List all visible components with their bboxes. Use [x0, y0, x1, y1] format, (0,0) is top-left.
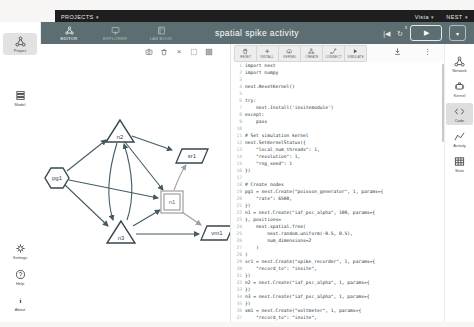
- code-line: 12nest.SetKernelStatus({: [231, 139, 445, 146]
- graph-edge-n3-n2[interactable]: [124, 144, 132, 220]
- panel-tab-stats[interactable]: Stats: [446, 153, 473, 175]
- sidebar-item-model[interactable]: Model: [3, 87, 37, 109]
- code-line: 23}, positions=: [231, 216, 445, 223]
- simulate-button[interactable]: ▶: [410, 25, 442, 41]
- code-line: 11# Set simulation kernel: [231, 132, 445, 139]
- code-line: 20 "rate": 6500,: [231, 195, 445, 202]
- code-line: 19pg1 = nest.Create("poisson_generator",…: [231, 188, 445, 195]
- code-text: n1 = nest.Create("iaf_psc_alpha", 100, p…: [245, 209, 375, 216]
- code-text: "record_to": "insite",: [245, 265, 317, 272]
- panel-tab-activity[interactable]: Activity: [446, 128, 473, 150]
- line-number: 33: [231, 286, 245, 293]
- simulate-options-button[interactable]: ▾: [449, 25, 466, 41]
- redo-button[interactable]: ↻3: [397, 30, 403, 37]
- nest-menu[interactable]: NEST▾: [440, 14, 474, 20]
- graph-node-n3[interactable]: n3: [107, 221, 135, 243]
- tab-explorer[interactable]: EXPLORER: [92, 22, 138, 44]
- close-button[interactable]: ×: [174, 47, 184, 57]
- line-number: 17: [231, 174, 245, 181]
- code-line: 13 "local_num_threads": 1,: [231, 146, 445, 153]
- rail-item-label: Settings: [13, 255, 27, 260]
- graph-edge-pg1-n3[interactable]: [65, 185, 108, 226]
- tab-editor[interactable]: EDITOR: [46, 22, 92, 44]
- graph-edge-n2-n3[interactable]: [109, 143, 117, 220]
- graph-edge-n2-n1[interactable]: [125, 142, 163, 190]
- code-block-label: SIMULATE: [347, 55, 363, 59]
- layers-icon: [15, 90, 26, 101]
- graph-node-vm1[interactable]: vm1: [201, 226, 232, 240]
- code-line: 30 "record_to": "insite",: [231, 265, 445, 272]
- line-number: 18: [231, 181, 245, 188]
- line-number: 26: [231, 237, 245, 244]
- graph-node-n2[interactable]: n2: [106, 120, 134, 142]
- code-block-connect-button[interactable]: CONNECT: [323, 45, 345, 62]
- panel-tab-kernel[interactable]: Kernel: [446, 78, 473, 100]
- code-block-simulate-button[interactable]: SIMULATE: [345, 45, 367, 62]
- code-line: 6try:: [231, 97, 445, 104]
- graph-edge-n2-sr1[interactable]: [132, 136, 172, 150]
- kebab-menu-icon[interactable]: ⋮: [424, 48, 431, 55]
- panel-tab-network[interactable]: Network: [446, 53, 473, 75]
- code-text: pg1 = nest.Create("poisson_generator", 1…: [245, 188, 383, 195]
- line-number: 12: [231, 139, 245, 146]
- graph-edge-n1-sr1[interactable]: [174, 165, 186, 190]
- code-block-reset-button[interactable]: RESET: [234, 45, 257, 62]
- camera-button[interactable]: [144, 47, 154, 57]
- line-number: 25: [231, 230, 245, 237]
- panel-tab-code[interactable]: Code: [446, 103, 473, 125]
- sidebar-item-help[interactable]: Help: [3, 266, 37, 288]
- right-sidebar: NetworkKernelCodeActivityStats: [444, 44, 474, 322]
- sidebar-item-project[interactable]: Project: [3, 33, 37, 55]
- code-block-install-button[interactable]: INSTALL: [257, 45, 279, 62]
- code-text: }): [245, 167, 251, 174]
- line-number: 20: [231, 195, 245, 202]
- graph-node-pg1[interactable]: pg1: [45, 168, 69, 188]
- node-label: n3: [118, 235, 125, 241]
- code-line: 4nest.ResetKernel(): [231, 83, 445, 90]
- line-number: 11: [231, 132, 245, 139]
- line-number: 36: [231, 307, 245, 314]
- code-line: 37 "record_to": "insite",: [231, 314, 445, 321]
- line-number: 34: [231, 293, 245, 300]
- code-line: 8except:: [231, 111, 445, 118]
- grid-icon: [205, 48, 213, 56]
- graph-edge-n3-n1[interactable]: [133, 210, 160, 226]
- grid-button[interactable]: [204, 47, 214, 57]
- tab-label: EDITOR: [61, 36, 78, 41]
- left-sidebar-top: ProjectModel: [0, 22, 40, 109]
- menu-label: Vista: [415, 14, 429, 20]
- line-number: 27: [231, 244, 245, 251]
- code-text: }): [245, 286, 251, 293]
- projects-menu[interactable]: PROJECTS ▾: [55, 14, 105, 20]
- select-button[interactable]: [189, 47, 199, 57]
- vista-menu[interactable]: Vista▾: [409, 14, 441, 20]
- line-number: 10: [231, 125, 245, 132]
- network-graph[interactable]: pg1n2n3n1sr1vm1: [40, 62, 232, 322]
- sidebar-item-settings[interactable]: Settings: [3, 240, 37, 262]
- code-block-create-button[interactable]: CREATE: [301, 45, 323, 62]
- code-line: 35}): [231, 300, 445, 307]
- rail-item-label: Network: [452, 68, 467, 73]
- network-icon: [65, 26, 74, 35]
- node-label: vm1: [211, 230, 223, 236]
- code-block-kernel-button[interactable]: KERNEL: [279, 45, 301, 62]
- skip-start-button[interactable]: |◀: [383, 30, 390, 37]
- line-number: 21: [231, 202, 245, 209]
- line-number: 8: [231, 111, 245, 118]
- graph-edge-n1-vm1[interactable]: [182, 212, 201, 225]
- graph-node-n1[interactable]: n1: [161, 191, 183, 213]
- code-line: 1import nest: [231, 62, 445, 69]
- sidebar-item-about[interactable]: About: [3, 292, 37, 314]
- trash-icon: [242, 48, 249, 55]
- graph-edge-pg1-n1[interactable]: [69, 180, 158, 198]
- download-icon[interactable]: [393, 47, 402, 56]
- projects-menu-label: PROJECTS: [61, 14, 94, 20]
- code-area: 1import nest2import numpy34nest.ResetKer…: [231, 62, 445, 322]
- code-line: 36vm1 = nest.Create("voltmeter", 1, para…: [231, 307, 445, 314]
- graph-node-sr1[interactable]: sr1: [176, 149, 208, 163]
- code-block-toggles: RESETINSTALLKERNELCREATECONNECTSIMULATE: [234, 45, 367, 62]
- line-number: 14: [231, 153, 245, 160]
- code-block-label: CONNECT: [325, 55, 341, 59]
- trash-button[interactable]: [159, 47, 169, 57]
- graph-edge-pg1-n2[interactable]: [67, 140, 106, 171]
